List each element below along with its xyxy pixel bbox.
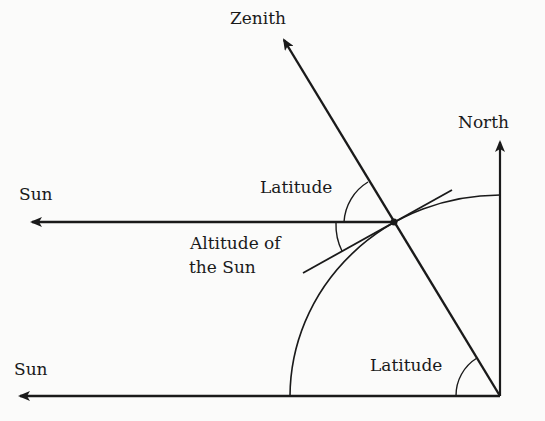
sun-label-lower: Sun <box>14 361 48 378</box>
altitude-label-line1: Altitude of <box>190 235 281 252</box>
north-label: North <box>458 114 509 131</box>
sun-label-upper: Sun <box>19 186 53 203</box>
horizon-tangent <box>303 190 452 273</box>
diagram-drawing <box>0 0 545 421</box>
altitude-label-line2: the Sun <box>189 259 256 276</box>
latitude-label-upper: Latitude <box>260 179 332 196</box>
zenith-arrow <box>284 40 500 396</box>
altitude-angle <box>336 223 342 251</box>
observer-point <box>391 219 398 226</box>
diagram-canvas: Zenith North Sun Sun Latitude Latitude A… <box>0 0 545 421</box>
zenith-label: Zenith <box>230 10 286 27</box>
latitude-label-lower: Latitude <box>370 357 442 374</box>
latitude-angle-upper <box>344 182 368 222</box>
latitude-angle-lower <box>456 358 477 396</box>
